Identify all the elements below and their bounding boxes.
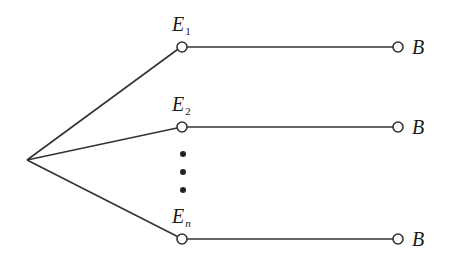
label-e1-main: E bbox=[172, 13, 184, 35]
label-b3: B bbox=[412, 229, 424, 249]
tree-diagram bbox=[0, 0, 454, 256]
label-en-main: E bbox=[172, 205, 184, 227]
label-e1: E1 bbox=[172, 14, 191, 34]
ellipsis-dot bbox=[180, 169, 186, 175]
node-en bbox=[177, 234, 187, 244]
node-b1 bbox=[393, 42, 403, 52]
branch-root-to-en bbox=[27, 160, 178, 237]
label-b1-text: B bbox=[412, 36, 424, 58]
label-en-sub: n bbox=[185, 217, 191, 229]
node-b3 bbox=[393, 234, 403, 244]
label-e2-main: E bbox=[172, 93, 184, 115]
node-b2 bbox=[393, 122, 403, 132]
ellipsis-dot bbox=[180, 151, 186, 157]
label-b2-text: B bbox=[412, 116, 424, 138]
node-e1 bbox=[177, 42, 187, 52]
ellipsis-dot bbox=[180, 187, 186, 193]
node-e2 bbox=[177, 122, 187, 132]
label-e1-sub: 1 bbox=[185, 25, 191, 37]
label-e2: E2 bbox=[172, 94, 191, 114]
label-b1: B bbox=[412, 37, 424, 57]
label-e2-sub: 2 bbox=[185, 105, 191, 117]
label-b2: B bbox=[412, 117, 424, 137]
label-en: En bbox=[172, 206, 191, 226]
label-b3-text: B bbox=[412, 228, 424, 250]
